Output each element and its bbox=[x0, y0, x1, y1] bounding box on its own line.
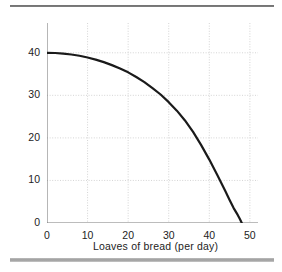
plot-area bbox=[47, 23, 258, 223]
y-tick-label-10: 10 bbox=[20, 173, 40, 185]
figure-root: 010203040 01020304050 Pizza (per day) Lo… bbox=[0, 0, 282, 272]
y-tick-label-30: 30 bbox=[20, 88, 40, 100]
x-axis-title: Loaves of bread (per day) bbox=[93, 240, 218, 252]
x-tick-label-0: 0 bbox=[37, 229, 57, 241]
y-tick-label-40: 40 bbox=[20, 46, 40, 58]
x-tick-label-50: 50 bbox=[240, 229, 260, 241]
top-divider-rule bbox=[10, 5, 274, 7]
y-tick-label-0: 0 bbox=[20, 216, 40, 228]
bottom-divider-rule bbox=[10, 258, 274, 262]
ppf-chart bbox=[47, 23, 258, 223]
y-tick-label-20: 20 bbox=[20, 131, 40, 143]
